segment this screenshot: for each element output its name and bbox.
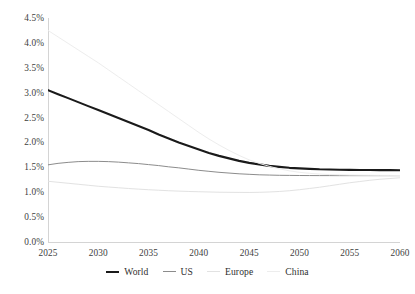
chart-legend: WorldUSEuropeChina	[0, 266, 415, 277]
legend-item-europe[interactable]: Europe	[207, 266, 253, 277]
series-line-world	[48, 90, 400, 170]
legend-item-us[interactable]: US	[163, 266, 193, 277]
legend-label: US	[181, 266, 193, 277]
series-line-china	[48, 30, 400, 175]
legend-label: World	[124, 266, 148, 277]
x-tick-label: 2045	[240, 248, 259, 258]
x-tick-label: 2030	[89, 248, 108, 258]
x-tick-label: 2025	[39, 248, 58, 258]
x-tick-label: 2055	[340, 248, 359, 258]
series-line-europe	[48, 178, 400, 193]
legend-item-world[interactable]: World	[106, 266, 148, 277]
x-tick-label: 2040	[189, 248, 208, 258]
legend-swatch-icon	[267, 271, 280, 272]
legend-swatch-icon	[163, 271, 176, 272]
x-tick-label: 2050	[290, 248, 309, 258]
legend-swatch-icon	[106, 271, 119, 273]
legend-label: Europe	[225, 266, 253, 277]
legend-label: China	[285, 266, 308, 277]
x-tick-label: 2035	[139, 248, 158, 258]
legend-swatch-icon	[207, 271, 220, 272]
legend-item-china[interactable]: China	[267, 266, 308, 277]
x-tick-label: 2060	[391, 248, 410, 258]
chart-container: 0.0%0.5%1.0%1.5%2.0%2.5%3.0%3.5%4.0%4.5%…	[0, 0, 415, 294]
series-lines	[48, 18, 400, 242]
plot-area	[48, 18, 400, 242]
series-line-us	[48, 161, 400, 175]
